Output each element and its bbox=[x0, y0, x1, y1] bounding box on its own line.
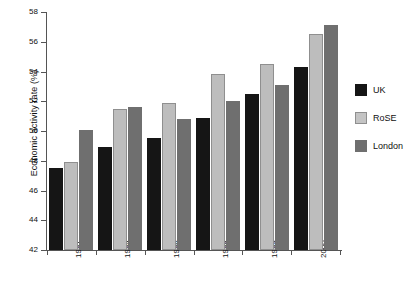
bar-uk-1988 bbox=[196, 118, 210, 250]
x-axis-tick bbox=[340, 250, 341, 255]
plot-area bbox=[47, 12, 340, 250]
y-axis-tick-label: 52 bbox=[14, 97, 38, 105]
bar-london-1981 bbox=[79, 130, 93, 250]
legend-item-uk: UK bbox=[355, 84, 415, 96]
legend-swatch-icon bbox=[355, 140, 367, 152]
y-axis-tick-label: 54 bbox=[14, 68, 38, 76]
x-axis-tick bbox=[242, 250, 243, 255]
bar-uk-2000 bbox=[294, 67, 308, 250]
bar-uk-1981 bbox=[49, 168, 63, 250]
bar-london-2000 bbox=[324, 25, 338, 250]
bar-uk-1986 bbox=[147, 138, 161, 250]
legend-swatch-icon bbox=[355, 84, 367, 96]
bar-rose-1989 bbox=[260, 64, 274, 250]
bar-uk-1984 bbox=[98, 147, 112, 250]
y-axis-tick-label: 46 bbox=[14, 187, 38, 195]
bar-london-1989 bbox=[275, 85, 289, 250]
bar-chart: Economic activity rate (%) 4244464850525… bbox=[0, 0, 416, 290]
bar-rose-1988 bbox=[211, 74, 225, 250]
x-axis-tick bbox=[194, 250, 195, 255]
bar-london-1984 bbox=[128, 107, 142, 250]
y-axis-tick-label: 58 bbox=[14, 8, 38, 16]
x-axis-tick bbox=[96, 250, 97, 255]
y-axis-tick-label: 44 bbox=[14, 216, 38, 224]
legend-label: RoSE bbox=[373, 113, 397, 123]
legend-label: UK bbox=[373, 85, 386, 95]
bar-uk-1989 bbox=[245, 94, 259, 250]
bar-rose-1986 bbox=[162, 103, 176, 250]
y-axis-tick-label: 50 bbox=[14, 127, 38, 135]
y-axis-tick-label: 48 bbox=[14, 157, 38, 165]
legend-item-london: London bbox=[355, 140, 415, 152]
x-axis-tick bbox=[291, 250, 292, 255]
bar-rose-1984 bbox=[113, 109, 127, 250]
bar-london-1986 bbox=[177, 119, 191, 250]
legend-item-rose: RoSE bbox=[355, 112, 415, 124]
legend-label: London bbox=[373, 141, 403, 151]
y-axis-tick-label: 56 bbox=[14, 38, 38, 46]
x-axis-tick bbox=[47, 250, 48, 255]
legend-swatch-icon bbox=[355, 112, 367, 124]
chart-legend: UKRoSELondon bbox=[355, 84, 415, 168]
bar-london-1988 bbox=[226, 101, 240, 250]
x-axis-tick bbox=[145, 250, 146, 255]
bar-rose-2000 bbox=[309, 34, 323, 250]
y-axis-tick-label: 42 bbox=[14, 246, 38, 254]
bar-rose-1981 bbox=[64, 162, 78, 250]
